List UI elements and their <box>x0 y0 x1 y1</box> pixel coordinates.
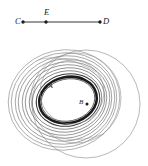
point-a <box>45 86 48 89</box>
figure-canvas <box>0 0 148 166</box>
label-e: E <box>44 8 49 17</box>
nested-ellipses <box>0 39 129 160</box>
segment-cde <box>21 20 101 23</box>
point-b <box>86 103 89 106</box>
point-d <box>98 20 101 23</box>
geometric-figure: C E D A B <box>0 0 148 166</box>
label-c: C <box>15 17 21 26</box>
point-c <box>21 20 24 23</box>
point-e <box>44 20 47 23</box>
label-a: A <box>49 83 53 90</box>
label-b: B <box>79 99 83 106</box>
label-d: D <box>103 17 109 26</box>
